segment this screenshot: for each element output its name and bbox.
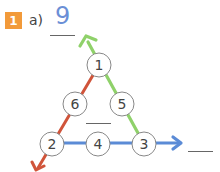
node-top: 1 — [87, 53, 111, 77]
node-value: 4 — [94, 136, 103, 152]
node-bottom-right: 3 — [132, 132, 156, 156]
node-mid-left: 6 — [63, 92, 87, 116]
node-bottom-left: 2 — [40, 132, 64, 156]
number-triangle: 1 6 5 2 4 3 — [0, 0, 220, 172]
node-value: 2 — [48, 136, 57, 152]
node-mid-right: 5 — [110, 92, 134, 116]
node-bottom-mid: 4 — [86, 132, 110, 156]
green-arrow — [80, 36, 144, 144]
node-value: 6 — [71, 96, 80, 112]
red-arrow — [32, 65, 99, 170]
node-value: 1 — [95, 57, 104, 73]
blue-arrow — [52, 137, 181, 149]
node-value: 3 — [140, 136, 149, 152]
node-value: 5 — [118, 96, 127, 112]
